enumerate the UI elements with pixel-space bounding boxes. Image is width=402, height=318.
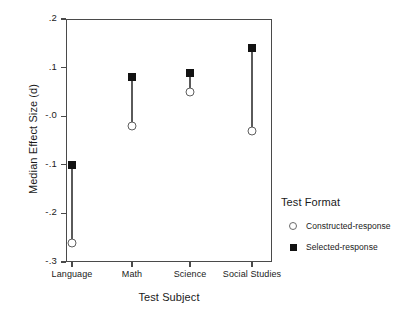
marker-selected-response-social-studies[interactable] xyxy=(248,44,256,52)
connector-math xyxy=(131,77,132,126)
x-axis-title: Test Subject xyxy=(66,291,272,303)
marker-constructed-response-language[interactable] xyxy=(68,238,77,247)
marker-constructed-response-math[interactable] xyxy=(128,121,137,130)
y-tick-mark-5 xyxy=(61,261,66,262)
legend-item-selected-response[interactable]: Selected-response xyxy=(286,242,401,252)
x-tick-mark-3 xyxy=(251,262,252,267)
y-tick-mark-2 xyxy=(61,116,66,117)
y-tick-mark-4 xyxy=(61,213,66,214)
legend-title: Test Format xyxy=(281,196,401,208)
legend-item-constructed-response[interactable]: Constructed-response xyxy=(286,221,401,231)
filled-square-icon xyxy=(286,244,300,251)
y-tick-mark-1 xyxy=(61,67,66,68)
connector-social-studies xyxy=(251,48,252,131)
x-tick-mark-1 xyxy=(131,262,132,267)
x-tick-label-math: Math xyxy=(122,269,142,279)
plot-area xyxy=(66,19,272,262)
x-tick-label-social-studies: Social Studies xyxy=(223,269,281,279)
y-tick-label-3: -.1 xyxy=(45,158,57,169)
chart-figure: Median Effect Size (d) Test Subject .2 .… xyxy=(0,0,402,318)
y-tick-label-1: .1 xyxy=(49,61,57,72)
y-tick-label-4: -.2 xyxy=(45,206,57,217)
x-tick-mark-0 xyxy=(71,262,72,267)
legend-label-selected-response: Selected-response xyxy=(306,242,378,252)
y-tick-label-0: .2 xyxy=(49,12,57,23)
y-tick-label-2: -.0 xyxy=(45,109,57,120)
x-tick-label-science: Science xyxy=(174,269,207,279)
y-tick-mark-0 xyxy=(61,18,66,19)
marker-constructed-response-social-studies[interactable] xyxy=(248,126,257,135)
marker-selected-response-language[interactable] xyxy=(68,161,76,169)
y-axis-title: Median Effect Size (d) xyxy=(27,29,39,249)
marker-constructed-response-science[interactable] xyxy=(186,87,195,96)
y-tick-label-5: -.3 xyxy=(45,255,57,266)
marker-selected-response-math[interactable] xyxy=(128,73,136,81)
legend: Test Format Constructed-response Selecte… xyxy=(281,196,401,263)
marker-selected-response-science[interactable] xyxy=(186,69,194,77)
connector-language xyxy=(71,165,72,243)
open-circle-icon xyxy=(286,222,300,230)
x-tick-mark-2 xyxy=(189,262,190,267)
legend-label-constructed-response: Constructed-response xyxy=(306,221,391,231)
x-tick-label-language: Language xyxy=(52,269,93,279)
y-tick-mark-3 xyxy=(61,164,66,165)
